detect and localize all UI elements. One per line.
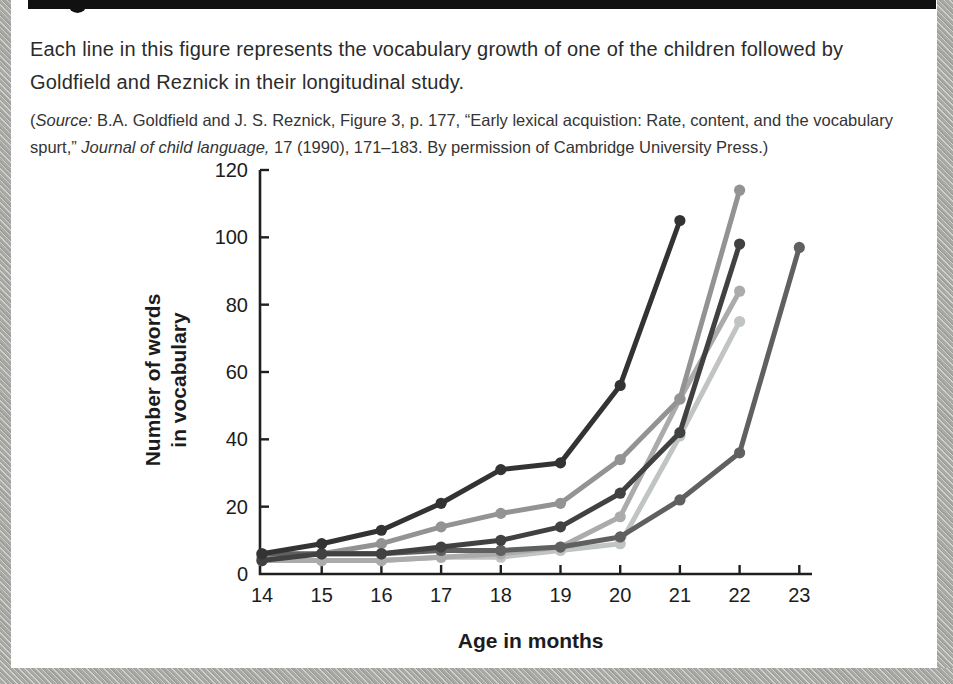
x-tick-label: 22 bbox=[728, 584, 750, 606]
x-tick-label: 21 bbox=[669, 584, 691, 606]
x-tick-label: 15 bbox=[311, 584, 333, 606]
vocabulary-chart-svg: 02040608010012014151617181920212223Age i… bbox=[0, 150, 953, 670]
series-child-5-point bbox=[615, 511, 626, 522]
series-child-2-point bbox=[495, 508, 506, 519]
series-child-2-point bbox=[376, 538, 387, 549]
series-child-1-point bbox=[256, 548, 267, 559]
series-child-2-point bbox=[674, 393, 685, 404]
series-child-3-point bbox=[316, 548, 327, 559]
series-child-3-point bbox=[734, 238, 745, 249]
scan-border-left bbox=[0, 0, 11, 684]
y-tick-label: 20 bbox=[226, 496, 248, 518]
series-child-1-point bbox=[376, 525, 387, 536]
y-axis-title: Number of words bbox=[141, 294, 164, 467]
source-segment: Source: bbox=[36, 111, 93, 129]
x-tick-label: 20 bbox=[609, 584, 631, 606]
series-child-1-point bbox=[436, 498, 447, 509]
series-child-4-point bbox=[674, 494, 685, 505]
series-child-2-point bbox=[436, 521, 447, 532]
x-tick-label: 16 bbox=[370, 584, 392, 606]
scan-border-right bbox=[937, 0, 953, 684]
x-tick-label: 17 bbox=[430, 584, 452, 606]
series-child-3-point bbox=[436, 541, 447, 552]
series-child-3-point bbox=[674, 427, 685, 438]
series-child-1-point bbox=[674, 215, 685, 226]
x-axis-title: Age in months bbox=[458, 629, 604, 652]
series-child-3-point bbox=[376, 548, 387, 559]
series-child-1-point bbox=[555, 457, 566, 468]
cropped-title-bar bbox=[28, 0, 936, 9]
x-tick-label: 18 bbox=[490, 584, 512, 606]
series-child-5-point bbox=[734, 286, 745, 297]
series-child-4-point bbox=[495, 545, 506, 556]
y-tick-label: 100 bbox=[215, 226, 248, 248]
x-tick-label: 23 bbox=[788, 584, 810, 606]
series-child-1-point bbox=[615, 380, 626, 391]
series-child-6-point bbox=[734, 316, 745, 327]
vocabulary-growth-chart: 02040608010012014151617181920212223Age i… bbox=[0, 150, 953, 670]
x-tick-label: 19 bbox=[549, 584, 571, 606]
series-child-2-point bbox=[555, 498, 566, 509]
series-child-1-point bbox=[495, 464, 506, 475]
series-child-2-point bbox=[615, 454, 626, 465]
y-tick-label: 80 bbox=[226, 294, 248, 316]
series-child-6-line bbox=[262, 322, 740, 561]
series-child-3-point bbox=[555, 521, 566, 532]
series-child-4-point bbox=[555, 541, 566, 552]
series-child-4-point bbox=[615, 531, 626, 542]
y-axis-title: in vocabulary bbox=[167, 312, 190, 448]
cropped-title-glyph bbox=[68, 0, 87, 13]
series-child-4-point bbox=[734, 447, 745, 458]
series-child-4-point bbox=[794, 242, 805, 253]
series-child-2-line bbox=[262, 190, 740, 557]
series-child-2-point bbox=[734, 185, 745, 196]
y-tick-label: 60 bbox=[226, 361, 248, 383]
y-tick-label: 120 bbox=[215, 159, 248, 181]
scan-border-bottom bbox=[0, 668, 953, 684]
series-child-1-point bbox=[316, 538, 327, 549]
series-child-5-line bbox=[262, 291, 740, 560]
x-tick-label: 14 bbox=[251, 584, 273, 606]
figure-caption: Each line in this figure represents the … bbox=[30, 33, 925, 99]
series-child-3-point bbox=[615, 488, 626, 499]
series-child-3-point bbox=[495, 535, 506, 546]
y-tick-label: 0 bbox=[237, 563, 248, 585]
y-tick-label: 40 bbox=[226, 428, 248, 450]
